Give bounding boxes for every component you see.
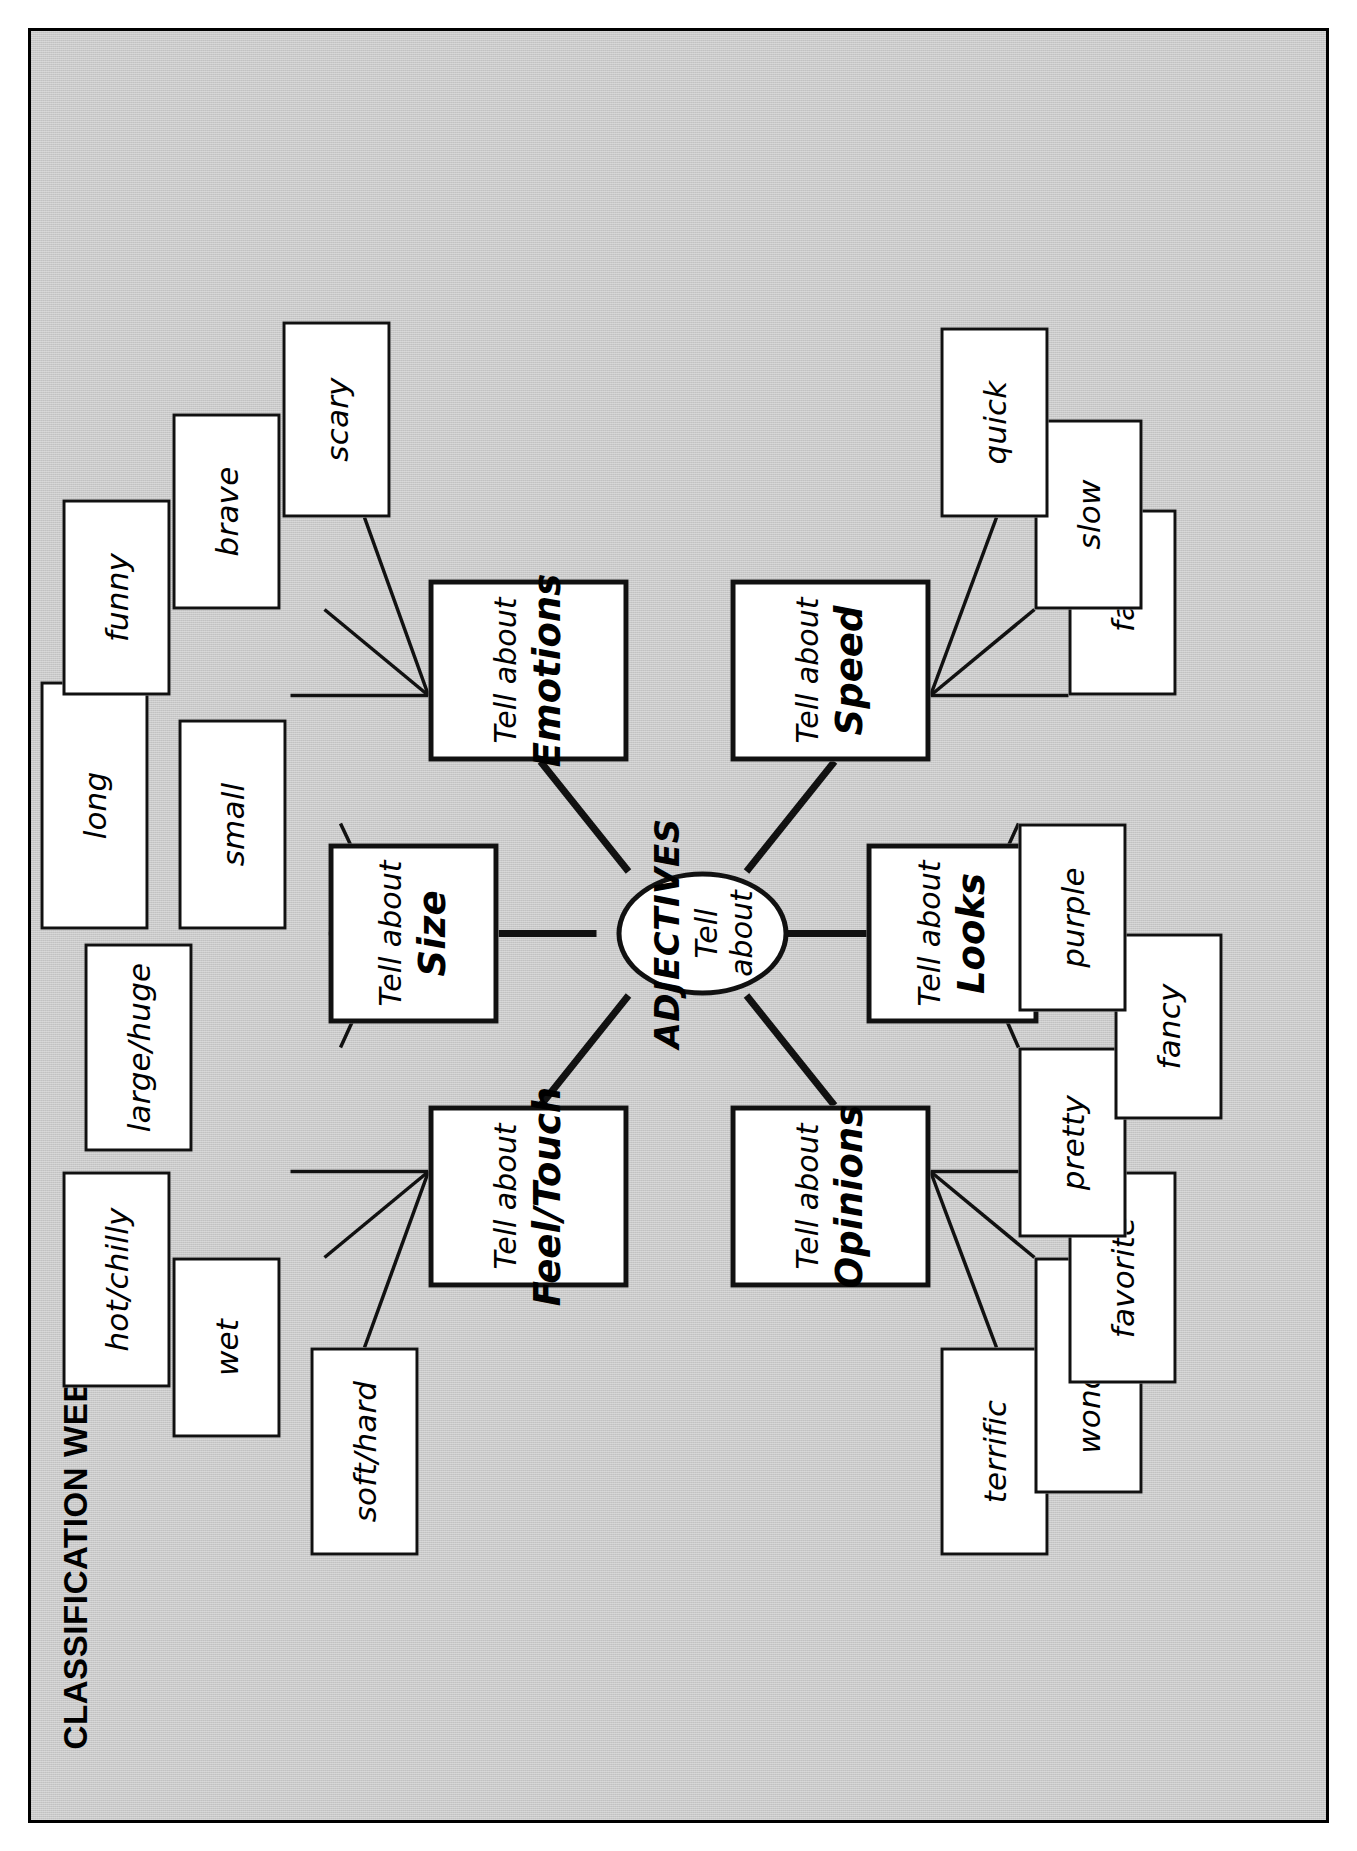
hub-subtitle: Tell about [688,876,758,990]
leaf-purple[interactable]: purple [1018,823,1126,1011]
classification-web-canvas: CLASSIFICATION WEB [28,28,1329,1823]
leaf-slow-label: slow [1071,479,1106,549]
category-speed-line2: Speed [828,605,869,735]
leaf-slow[interactable]: slow [1034,419,1142,609]
leaf-pretty-label: pretty [1055,1094,1090,1189]
leaf-fancy-label: fancy [1151,983,1186,1069]
leaf-large-huge[interactable]: large/huge [84,943,192,1151]
category-size[interactable]: Tell about Size [328,843,498,1023]
hub-title: ADJECTIVES [646,818,686,1048]
category-feel-touch-line2: Feel/Touch [526,1086,567,1305]
leaf-brave-label: brave [209,466,244,556]
category-looks-line1: Tell about [912,860,946,1006]
leaf-hot-chilly-label: hot/chilly [99,1207,134,1351]
worksheet-sheet: CLASSIFICATION WEB [28,28,1329,1823]
category-size-line1: Tell about [373,860,407,1006]
leaf-funny[interactable]: funny [62,499,170,695]
leaf-pretty[interactable]: pretty [1018,1047,1126,1237]
leaf-small[interactable]: small [178,719,286,929]
leaf-wet[interactable]: wet [172,1257,280,1437]
leaf-soft-hard-label: soft/hard [347,1380,382,1522]
category-opinions-line2: Opinions [828,1104,869,1287]
leaf-soft-hard[interactable]: soft/hard [310,1347,418,1555]
category-feel-touch[interactable]: Tell about Feel/Touch [428,1105,628,1287]
hub-adjectives[interactable]: ADJECTIVES Tell about [616,871,788,995]
leaf-long[interactable]: long [40,681,148,929]
spoke-speed [746,761,834,871]
leaf-wet-label: wet [209,1318,244,1375]
leaf-terrific[interactable]: terrific [940,1347,1048,1555]
category-looks-line2: Looks [950,872,991,993]
leaf-fancy[interactable]: fancy [1114,933,1222,1119]
category-opinions-line1: Tell about [790,1123,824,1269]
leaf-quick-label: quick [977,380,1012,464]
leaf-large-huge-label: large/huge [121,962,156,1132]
category-emotions-line1: Tell about [488,597,522,743]
leaf-small-label: small [215,782,250,866]
category-feel-touch-line1: Tell about [488,1123,522,1269]
leaf-purple-label: purple [1055,867,1090,968]
category-size-line2: Size [411,890,452,976]
category-opinions[interactable]: Tell about Opinions [730,1105,930,1287]
leaf-long-label: long [77,771,112,839]
leaf-scary[interactable]: scary [282,321,390,517]
category-speed[interactable]: Tell about Speed [730,579,930,761]
leaf-hot-chilly[interactable]: hot/chilly [62,1171,170,1387]
leaf-terrific-label: terrific [977,1399,1012,1503]
leaf-scary-label: scary [319,377,354,461]
category-emotions[interactable]: Tell about Emotions [428,579,628,761]
category-speed-line1: Tell about [790,597,824,743]
category-emotions-line2: Emotions [526,573,567,766]
spoke-emotions [540,761,628,871]
spoke-opinions [746,995,834,1105]
worksheet-page: CLASSIFICATION WEB [0,0,1357,1851]
leaf-brave[interactable]: brave [172,413,280,609]
leaf-quick[interactable]: quick [940,327,1048,517]
category-looks[interactable]: Tell about Looks [866,843,1038,1023]
leaf-funny-label: funny [99,552,134,641]
